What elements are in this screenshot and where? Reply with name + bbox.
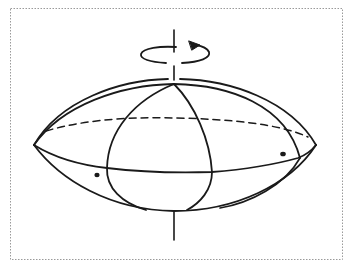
upper-surface-inner [34, 84, 300, 158]
back-equator-dashed [46, 118, 308, 137]
surface-point-right [280, 152, 286, 157]
diagram-stage [0, 0, 351, 265]
meridian-right [174, 84, 212, 210]
rotating-body-diagram [0, 0, 351, 265]
upper-surface-outer [34, 79, 316, 145]
rotation-arrow-icon [141, 45, 209, 63]
surface-point-left [94, 173, 99, 177]
lower-surface [34, 145, 316, 211]
meridian-left [107, 84, 174, 210]
dotted-frame [11, 9, 343, 260]
rotation-arrowhead-icon [189, 41, 200, 50]
front-equator [34, 145, 316, 172]
